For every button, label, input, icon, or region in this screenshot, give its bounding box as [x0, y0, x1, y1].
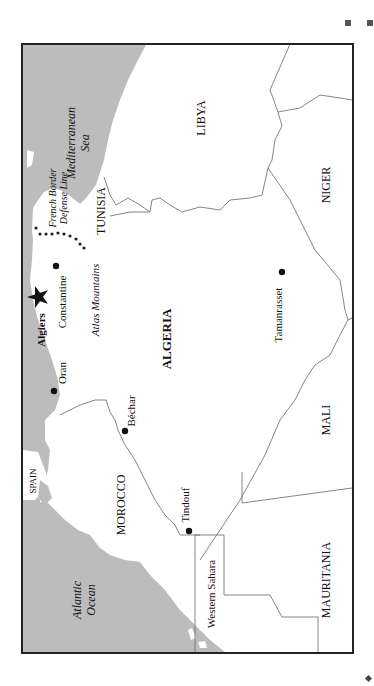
algeria-map: Mediterranean Sea LIBYA NIGER French Bor… [0, 0, 374, 686]
label-tindouf: Tindouf [179, 487, 191, 522]
label-sea: Sea [78, 134, 92, 151]
label-mauritania: MAURITANIA [319, 541, 333, 618]
label-libya: LIBYA [194, 100, 208, 136]
label-mediterranean: Mediterranean [64, 107, 78, 180]
label-morocco: MOROCCO [114, 474, 128, 535]
label-oran: Oran [56, 362, 68, 384]
label-atlas-mountains: Atlas Mountains [89, 264, 101, 337]
label-spain: SPAIN [28, 468, 38, 494]
label-mali: MALI [319, 405, 333, 436]
tindouf-dot [186, 528, 192, 534]
label-tamanrasset: Tamanrasset [272, 288, 284, 343]
constantine-dot [53, 263, 59, 269]
label-defense-line-2: Defense Line [58, 171, 69, 225]
label-tunisia: TUNISIA [94, 187, 108, 235]
bechar-dot [122, 428, 128, 434]
label-algeria: ALGERIA [159, 308, 174, 369]
label-defense-line-1: French Border [47, 168, 58, 228]
label-niger: NIGER [319, 167, 333, 204]
tamanrasset-dot [279, 269, 285, 275]
label-bechar: Béchar [125, 395, 137, 426]
label-algiers: Algiers [35, 312, 47, 346]
label-atlantic: Atlantic [70, 580, 84, 620]
label-ocean: Ocean [84, 584, 98, 615]
oran-dot [51, 388, 57, 394]
label-constantine: Constantine [56, 276, 68, 329]
label-western-sahara: Western Sahara [205, 560, 217, 629]
